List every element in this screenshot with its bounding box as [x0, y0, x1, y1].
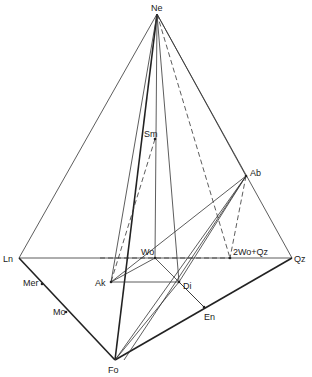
label-di: Di: [183, 281, 192, 291]
label-sm: Sm: [144, 129, 158, 139]
labels: Ne Ln Qz Fo Ab Sm Wo 2Wo+Qz Ak Di En Mer…: [3, 3, 306, 375]
label-qz: Qz: [294, 254, 306, 264]
label-mer: Mer: [23, 278, 39, 288]
label-ab: Ab: [250, 168, 261, 178]
label-ak: Ak: [95, 278, 106, 288]
label-mo: Mo: [53, 307, 66, 317]
ne-join-lines: [111, 14, 246, 282]
ab-join-lines: [111, 176, 246, 360]
label-2wo-qz: 2Wo+Qz: [233, 247, 269, 257]
label-ne: Ne: [151, 3, 163, 13]
label-wo: Wo: [141, 247, 154, 257]
label-fo: Fo: [108, 365, 119, 375]
label-ln: Ln: [3, 254, 13, 264]
label-en: En: [204, 312, 215, 322]
tetrahedron-diagram: Ne Ln Qz Fo Ab Sm Wo 2Wo+Qz Ak Di En Mer…: [0, 0, 312, 377]
